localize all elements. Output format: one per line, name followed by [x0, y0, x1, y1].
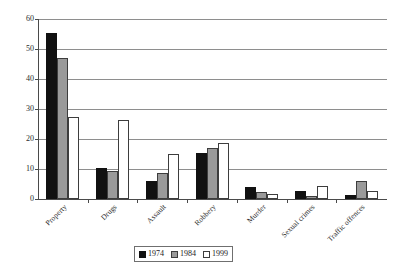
legend-label-1999: 1999 [212, 250, 228, 258]
bar-group [38, 19, 88, 199]
bar-1999 [168, 154, 179, 199]
bar-1984 [207, 148, 218, 199]
bar-1984 [356, 181, 367, 199]
bar-1999 [317, 186, 328, 200]
bar-1974 [146, 181, 157, 199]
bar-chart: 0102030405060 PropertyDrugsAssaultRobber… [0, 0, 404, 268]
legend-item-1974: 1974 [139, 250, 164, 258]
y-axis-tick-label: 30 [0, 105, 34, 113]
bar-1984 [107, 171, 118, 200]
bar-group [88, 19, 138, 199]
bar-group [287, 19, 337, 199]
legend-swatch-icon-1999 [203, 251, 210, 258]
bar-1999 [367, 191, 378, 199]
x-axis-tick-label: Property [44, 203, 68, 227]
bar-1974 [96, 168, 107, 199]
bar-1999 [68, 117, 79, 200]
x-axis-tick-label: Robbery [193, 203, 217, 227]
y-axis-tick-label: 40 [0, 75, 34, 83]
legend-swatch-icon-1974 [139, 251, 146, 258]
x-axis-tick-label: Assault [146, 203, 168, 225]
bar-group [137, 19, 187, 199]
y-axis-tick-label: 50 [0, 45, 34, 53]
x-axis-tick-label: Sexual crimes [281, 203, 317, 239]
y-axis-tick-label: 10 [0, 165, 34, 173]
x-axis-tick-label: Traffic offences [326, 203, 366, 243]
bar-1984 [157, 173, 168, 199]
x-axis-tick-label: Drugs [99, 203, 118, 222]
y-axis-labels: 0102030405060 [0, 19, 34, 199]
bar-group [237, 19, 287, 199]
x-axis-labels: PropertyDrugsAssaultRobberyMurderSexual … [38, 201, 386, 247]
y-axis-tick-label: 20 [0, 135, 34, 143]
bar-groups [38, 19, 386, 199]
legend-item-1984: 1984 [171, 250, 196, 258]
bar-1984 [256, 192, 267, 199]
bar-1999 [218, 143, 229, 199]
bar-1984 [57, 58, 68, 199]
x-axis-tick-label: Murder [245, 203, 267, 225]
bar-1974 [295, 191, 306, 199]
bar-group [187, 19, 237, 199]
legend-item-1999: 1999 [203, 250, 228, 258]
chart-legend: 1974 1984 1999 [134, 246, 233, 262]
bar-1974 [196, 153, 207, 199]
bar-1999 [118, 120, 129, 200]
bar-group [336, 19, 386, 199]
legend-label-1974: 1974 [148, 250, 164, 258]
legend-label-1984: 1984 [180, 250, 196, 258]
bar-1974 [245, 187, 256, 199]
y-axis-tick-label: 0 [0, 195, 34, 203]
legend-swatch-icon-1984 [171, 251, 178, 258]
y-axis-tick-label: 60 [0, 15, 34, 23]
bar-1974 [46, 33, 57, 199]
